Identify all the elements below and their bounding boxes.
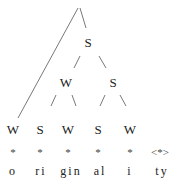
syllable: al	[94, 165, 107, 177]
syllable: ty	[155, 165, 168, 177]
grid-mark: *	[10, 147, 16, 158]
terminal-node: S	[94, 123, 101, 136]
terminal-node: W	[7, 123, 19, 136]
syllable: ri	[35, 165, 46, 177]
terminal-node: W	[124, 123, 136, 136]
grid-mark-extrametrical: <*>	[151, 147, 169, 158]
syllable: o	[9, 165, 17, 177]
grid-mark: *	[65, 147, 71, 158]
terminal-node: S	[36, 123, 43, 136]
node-top-s: S	[84, 36, 91, 49]
grid-mark: *	[95, 147, 101, 158]
syllable: gin	[60, 165, 81, 177]
syllable: i	[127, 165, 132, 177]
terminal-node: W	[62, 123, 74, 136]
node-mid-w: W	[60, 76, 72, 89]
node-mid-s: S	[109, 76, 116, 89]
grid-mark: *	[127, 147, 133, 158]
grid-mark: *	[37, 147, 43, 158]
